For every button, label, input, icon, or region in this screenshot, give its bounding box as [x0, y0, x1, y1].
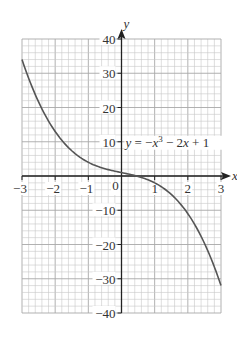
y-axis-label: y	[122, 16, 130, 31]
y-tick-label: 40	[103, 32, 116, 47]
y-tick-label: 10	[103, 135, 116, 150]
y-tick-label: 30	[103, 66, 116, 81]
equation-annotation: y = −x3 − 2x + 1	[124, 134, 210, 150]
x-tick-label: −3	[13, 181, 27, 196]
x-tick-label: 2	[185, 181, 192, 196]
x-axis-label: x	[231, 168, 237, 183]
cubic-function-chart: 40302010−10−20−30−40−3−2−10123 y x y = −…	[0, 0, 237, 349]
x-tick-label: −2	[46, 181, 60, 196]
y-tick-label: −30	[95, 272, 115, 287]
x-tick-label: 3	[218, 181, 225, 196]
x-tick-label: −1	[79, 181, 93, 196]
x-tick-label: 0	[112, 178, 119, 193]
axes	[22, 29, 231, 313]
y-tick-label: −10	[95, 203, 115, 218]
y-tick-label: −40	[95, 306, 115, 321]
y-tick-label: −20	[95, 238, 115, 253]
y-tick-label: 20	[103, 101, 116, 116]
